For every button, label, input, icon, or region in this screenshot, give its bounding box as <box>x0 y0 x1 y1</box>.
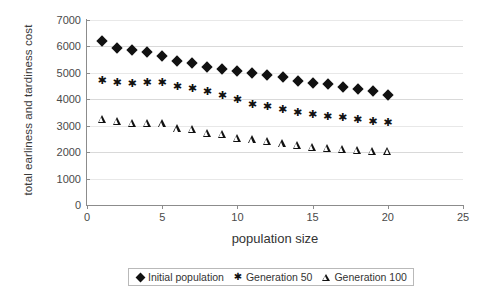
y-axis-tick <box>86 99 90 100</box>
star-marker-icon: ✱ <box>368 117 378 127</box>
star-marker-icon: ✱ <box>187 84 197 94</box>
diamond-marker-icon <box>247 68 258 79</box>
star-marker-icon: ✱ <box>383 118 393 128</box>
gridline <box>87 46 463 47</box>
y-axis-tick <box>86 20 90 21</box>
star-marker-icon: ✱ <box>217 91 227 101</box>
legend-item-initial-population[interactable]: Initial population <box>135 271 224 283</box>
triangle-marker-icon <box>188 125 196 133</box>
x-axis-tick <box>87 205 88 209</box>
diamond-marker-icon <box>141 47 152 58</box>
diamond-marker-icon <box>135 272 145 282</box>
triangle-marker-icon <box>128 119 136 127</box>
star-marker-icon: ✱ <box>308 110 318 120</box>
legend-item-generation-100[interactable]: Generation 100 <box>321 271 406 283</box>
y-axis-tick <box>86 73 90 74</box>
y-axis-tick <box>86 126 90 127</box>
star-marker-icon: ✱ <box>172 82 182 92</box>
star-marker-icon: ✱ <box>232 95 242 105</box>
x-axis-tick-label: 25 <box>448 211 478 223</box>
diamond-marker-icon <box>187 57 198 68</box>
y-axis-tick-label: 3000 <box>35 121 81 131</box>
x-axis-tick-label: 15 <box>298 211 328 223</box>
y-axis-tick <box>86 179 90 180</box>
scatter-chart: total earliness and tardiness cost 01000… <box>0 0 485 296</box>
triangle-marker-icon <box>233 134 241 142</box>
y-axis-tick-label: 6000 <box>35 41 81 51</box>
y-axis-tick-label: 7000 <box>35 15 81 25</box>
star-marker-icon: ✱ <box>338 113 348 123</box>
triangle-marker-icon <box>158 119 166 127</box>
triangle-marker-icon <box>368 147 376 155</box>
chart-legend: Initial population ✱ Generation 50 Gener… <box>128 268 414 286</box>
y-axis-tick-label: 5000 <box>35 68 81 78</box>
triangle-marker-icon <box>353 146 361 154</box>
triangle-marker-icon <box>293 141 301 149</box>
star-marker-icon: ✱ <box>262 102 272 112</box>
x-axis-tick <box>388 205 389 209</box>
diamond-marker-icon <box>157 50 168 61</box>
legend-label: Initial population <box>148 271 224 283</box>
diamond-marker-icon <box>322 79 333 90</box>
diamond-marker-icon <box>337 81 348 92</box>
plot-area: ✱✱✱✱✱✱✱✱✱✱✱✱✱✱✱✱✱✱✱✱ <box>87 20 463 205</box>
diamond-marker-icon <box>262 70 273 81</box>
triangle-marker-icon <box>278 139 286 147</box>
y-axis-tick-label: 0 <box>35 200 81 210</box>
diamond-marker-icon <box>352 83 363 94</box>
triangle-marker-icon <box>338 145 346 153</box>
diamond-marker-icon <box>172 56 183 67</box>
y-axis-tick <box>86 46 90 47</box>
star-marker-icon: ✱ <box>293 108 303 118</box>
y-axis-tick <box>86 152 90 153</box>
star-marker-icon: ✱ <box>247 100 257 110</box>
y-axis-tick-label: 1000 <box>35 174 81 184</box>
star-marker-icon: ✱ <box>97 76 107 86</box>
star-marker-icon: ✱ <box>323 112 333 122</box>
x-axis-title: population size <box>87 231 463 246</box>
y-axis-tick-label: 4000 <box>35 94 81 104</box>
triangle-marker-icon <box>248 135 256 143</box>
diamond-marker-icon <box>96 35 107 46</box>
triangle-marker-icon <box>143 119 151 127</box>
diamond-marker-icon <box>111 43 122 54</box>
x-axis-tick <box>463 205 464 209</box>
gridline <box>87 20 463 21</box>
gridline <box>87 73 463 74</box>
star-marker-icon: ✱ <box>157 78 167 88</box>
gridline <box>87 152 463 153</box>
triangle-marker-icon <box>321 272 331 282</box>
diamond-marker-icon <box>202 61 213 72</box>
triangle-marker-icon <box>323 144 331 152</box>
star-marker-icon: ✱ <box>142 78 152 88</box>
triangle-marker-icon <box>203 129 211 137</box>
legend-label: Generation 50 <box>246 271 313 283</box>
triangle-marker-icon <box>383 147 391 155</box>
diamond-marker-icon <box>307 77 318 88</box>
x-axis-tick-label: 0 <box>72 211 102 223</box>
star-marker-icon: ✱ <box>127 79 137 89</box>
x-axis-tick-label: 20 <box>373 211 403 223</box>
star-marker-icon: ✱ <box>202 87 212 97</box>
x-axis-tick-label: 5 <box>147 211 177 223</box>
star-marker-icon: ✱ <box>353 115 363 125</box>
triangle-marker-icon <box>263 137 271 145</box>
legend-item-generation-50[interactable]: ✱ Generation 50 <box>233 271 313 283</box>
x-axis-tick <box>237 205 238 209</box>
gridline <box>87 179 463 180</box>
triangle-marker-icon <box>98 115 106 123</box>
x-axis-tick <box>162 205 163 209</box>
star-marker-icon: ✱ <box>112 78 122 88</box>
star-marker-icon: ✱ <box>233 272 243 282</box>
x-axis-line <box>87 205 464 206</box>
y-axis-tick-label: 2000 <box>35 147 81 157</box>
diamond-marker-icon <box>232 66 243 77</box>
triangle-marker-icon <box>308 143 316 151</box>
x-axis-tick <box>313 205 314 209</box>
diamond-marker-icon <box>292 75 303 86</box>
gridline <box>87 99 463 100</box>
triangle-marker-icon <box>113 117 121 125</box>
x-axis-tick-label: 10 <box>222 211 252 223</box>
diamond-marker-icon <box>367 85 378 96</box>
y-axis-tick-labels: 01000200030004000500060007000 <box>31 0 81 296</box>
